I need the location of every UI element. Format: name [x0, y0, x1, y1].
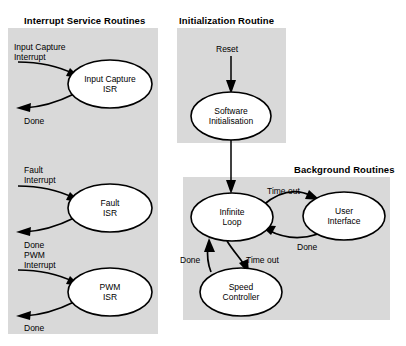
node-speed-controller[interactable]: [200, 268, 282, 316]
node-pwm-isr[interactable]: [68, 268, 152, 316]
node-input-capture-isr[interactable]: [68, 60, 152, 108]
node-software-initialisation[interactable]: [191, 92, 271, 140]
node-infinite-loop[interactable]: [191, 193, 273, 241]
node-user-interface[interactable]: [303, 192, 385, 240]
node-fault-isr[interactable]: [68, 184, 152, 232]
diagram-canvas: Interrupt Service Routines Initializatio…: [0, 0, 406, 346]
node-layer: [0, 0, 406, 346]
